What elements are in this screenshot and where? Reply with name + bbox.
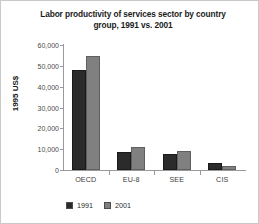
chart-title-line-1: Labor productivity of services sector by… <box>27 9 239 20</box>
y-axis-tick-label: 10,000 <box>25 146 59 153</box>
bar-group <box>117 45 145 170</box>
y-axis-tick-mark <box>60 87 64 88</box>
y-axis-tick-mark <box>60 108 64 109</box>
chart-title-line-2: group, 1991 vs. 2001 <box>27 20 239 31</box>
bar-cis-2001 <box>222 166 236 170</box>
y-axis-tick-labels: 60,00050,00040,00030,00020,00010,0000 <box>23 45 59 170</box>
y-axis-tick-label: 20,000 <box>25 125 59 132</box>
y-axis-label: 1995 US$ <box>11 59 20 129</box>
bar-oecd-2001 <box>86 56 100 170</box>
x-axis-category-label-eu-8: EU-8 <box>109 175 153 184</box>
legend-item-1991: 1991 <box>66 201 93 210</box>
y-axis-tick-label: 50,000 <box>25 62 59 69</box>
x-axis-category-label-see: SEE <box>155 175 199 184</box>
bar-cis-1991 <box>208 163 222 170</box>
y-axis-tick-mark <box>60 149 64 150</box>
legend-item-2001: 2001 <box>104 201 131 210</box>
legend-label: 2001 <box>115 201 131 210</box>
chart-legend: 19912001 <box>66 201 131 210</box>
legend-label: 1991 <box>77 201 93 210</box>
bar-eu-8-1991 <box>117 152 131 170</box>
y-axis-tick-label: 40,000 <box>25 83 59 90</box>
legend-swatch-icon <box>66 202 73 209</box>
bar-see-1991 <box>163 154 177 170</box>
y-axis-tick-mark <box>60 45 64 46</box>
y-axis-tick-mark <box>60 66 64 67</box>
legend-swatch-icon <box>104 202 111 209</box>
bar-see-2001 <box>177 151 191 170</box>
bar-group <box>72 45 100 170</box>
bar-eu-8-2001 <box>131 147 145 170</box>
chart-title: Labor productivity of services sector by… <box>27 9 239 31</box>
y-axis-tick-mark <box>60 170 64 171</box>
y-axis-tick-label: 0 <box>25 167 59 174</box>
x-axis-category-label-oecd: OECD <box>64 175 108 184</box>
x-axis-category-label-cis: CIS <box>200 175 244 184</box>
y-axis-tick-label: 30,000 <box>25 104 59 111</box>
bar-group <box>208 45 236 170</box>
bar-oecd-1991 <box>72 70 86 170</box>
bar-group <box>163 45 191 170</box>
y-axis-tick-mark <box>60 128 64 129</box>
plot-area <box>63 45 245 170</box>
y-axis-tick-label: 60,000 <box>25 42 59 49</box>
chart-figure: Labor productivity of services sector by… <box>0 0 259 224</box>
